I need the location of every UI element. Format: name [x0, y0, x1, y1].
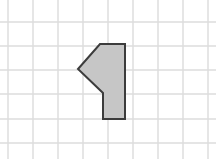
figure-svg — [0, 0, 216, 159]
gray-pentagon-arrow-shape — [78, 44, 125, 119]
grid-worksheet-canvas — [0, 0, 216, 159]
